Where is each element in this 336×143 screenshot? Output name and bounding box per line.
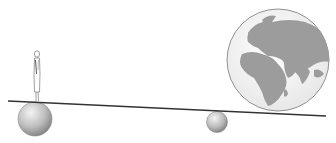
person-figure-icon — [34, 51, 40, 101]
globe-icon — [227, 9, 330, 111]
left-ball — [18, 102, 52, 136]
seesaw-illustration — [0, 0, 336, 143]
seesaw-diagram — [0, 0, 336, 143]
fulcrum-ball — [207, 112, 228, 133]
